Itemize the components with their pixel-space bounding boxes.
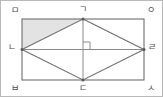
vertex-dot-left (21, 48, 24, 51)
vertex-label-right-mid: ㄹ (148, 43, 156, 52)
vertex-dot-bottom (82, 79, 85, 82)
vertex-dot-right (143, 48, 146, 51)
geometry-figure-frame: ㅁ ㄱ ㅇ ㄴ ㄹ ㅂ ㄷ ㅅ (0, 0, 163, 97)
vertex-label-top-left: ㅁ (11, 6, 19, 15)
vertex-label-top-right: ㅇ (147, 6, 155, 15)
vertex-dot-top (82, 18, 85, 21)
vertex-label-bottom-left: ㅂ (11, 84, 19, 93)
vertex-label-top-mid: ㄱ (79, 5, 87, 14)
right-angle-mark-icon (83, 42, 90, 50)
vertex-label-left-mid: ㄴ (8, 43, 16, 52)
vertex-label-bottom-right: ㅅ (147, 84, 155, 93)
vertex-label-bottom-mid: ㄷ (79, 84, 87, 93)
